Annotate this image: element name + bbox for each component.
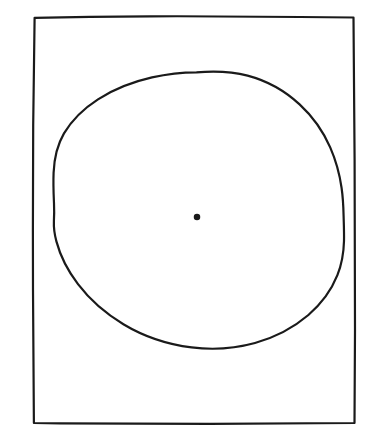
canvas-background [0, 0, 377, 440]
center-point-dot [194, 214, 201, 221]
hand-drawn-diagram [0, 0, 377, 440]
figure-canvas: Hand-drawn circle inscribed in a rectang… [0, 0, 377, 440]
